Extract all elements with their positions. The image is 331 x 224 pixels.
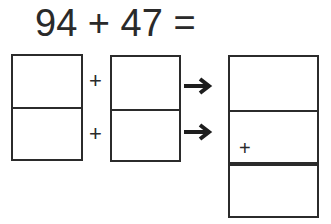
result-ones-cell[interactable]: + xyxy=(230,112,317,162)
second-addend-tens-cell[interactable] xyxy=(112,57,179,109)
plus-sign-row1: + xyxy=(89,70,102,92)
arrow-right-icon xyxy=(183,77,213,95)
result-sum-cell[interactable] xyxy=(230,166,317,216)
plus-sign-row2: + xyxy=(89,123,102,145)
second-addend-ones-cell[interactable] xyxy=(112,111,179,160)
result-tens-cell[interactable] xyxy=(230,57,317,110)
arrow-right-icon xyxy=(183,123,213,141)
equation-title: 94 + 47 = xyxy=(35,3,196,43)
carry-plus-sign: + xyxy=(239,137,251,159)
second-addend-box xyxy=(110,55,181,162)
first-addend-ones-cell[interactable] xyxy=(13,109,81,159)
result-box: + xyxy=(228,55,319,218)
first-addend-tens-cell[interactable] xyxy=(13,56,81,108)
first-addend-box xyxy=(11,54,83,161)
